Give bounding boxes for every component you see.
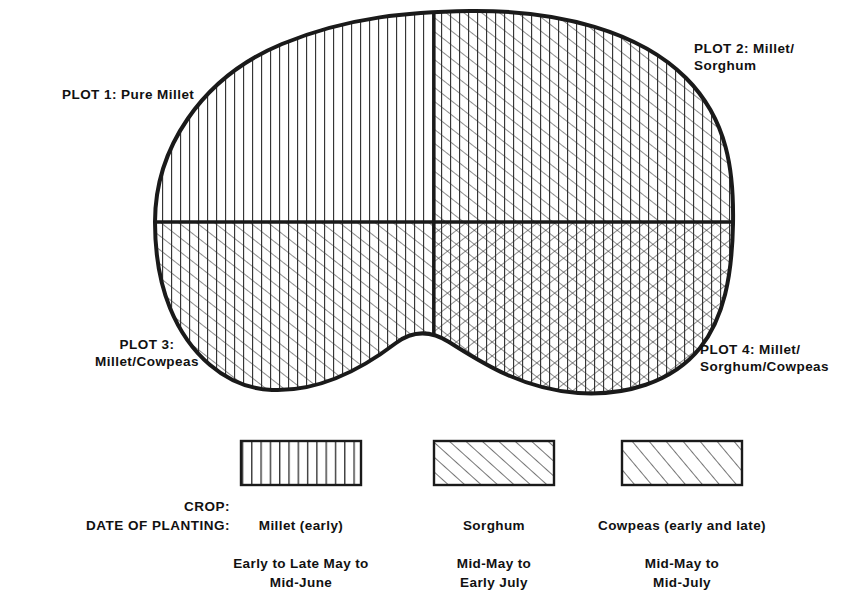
legend-dates-millet: Early to Late May to Mid-June [185,554,417,592]
plot-2-label: PLOT 2: Millet/ Sorghum [694,40,795,74]
sorghum-swatch [434,441,554,485]
legend-column-sorghum: Sorghum Mid-May to Early July [418,497,570,609]
legend-crop-sorghum: Sorghum [418,516,570,535]
legend-dates-cowpeas: Mid-May to Mid-July [586,554,778,592]
millet-swatch [241,441,361,485]
legend-crop-millet: Millet (early) [185,516,417,535]
plot-3-label: PLOT 3: Millet/Cowpeas [74,336,220,370]
plot-4-label: PLOT 4: Millet/ Sorghum/Cowpeas [700,341,829,375]
legend-dates-sorghum: Mid-May to Early July [418,554,570,592]
legend-column-millet: Millet (early) Early to Late May to Mid-… [185,497,417,609]
legend-column-cowpeas: Cowpeas (early and late) Mid-May to Mid-… [586,497,778,609]
plot-diagram-figure: PLOT 1: Pure Millet PLOT 2: Millet/ Sorg… [0,0,858,609]
plot-1-label: PLOT 1: Pure Millet [62,86,194,103]
cowpeas-swatch [622,441,742,485]
legend-crop-cowpeas: Cowpeas (early and late) [586,516,778,535]
legend: CROP: DATE OF PLANTING: Millet (early) E… [0,437,858,609]
